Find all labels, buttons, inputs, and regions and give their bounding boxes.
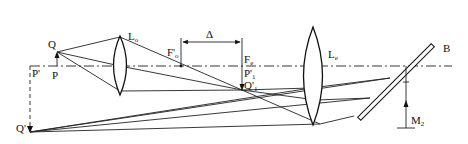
label-delta: Δ bbox=[206, 28, 213, 40]
ray bbox=[120, 66, 242, 90]
ray bbox=[57, 52, 120, 91]
label-b: B bbox=[443, 42, 450, 54]
eyepiece-lens bbox=[304, 27, 323, 125]
ray bbox=[120, 90, 242, 91]
microscope-diagram: Q P P' Q' Lo Le F'o Fe P'1 Q'1 Δ B M2 bbox=[0, 0, 468, 144]
ray bbox=[57, 52, 120, 66]
label-p-prime: P' bbox=[32, 67, 40, 79]
label-fo-prime: F'o bbox=[167, 46, 179, 60]
label-q-prime: Q' bbox=[16, 122, 26, 134]
label-p: P bbox=[52, 69, 58, 81]
ray bbox=[320, 116, 354, 124]
label-lo: Lo bbox=[128, 30, 139, 44]
ray bbox=[57, 37, 120, 52]
label-q1-prime: Q'1 bbox=[244, 79, 258, 93]
fo-prime-point bbox=[180, 65, 183, 68]
beam-splitter-plate bbox=[358, 44, 435, 121]
label-le: Le bbox=[328, 48, 338, 62]
label-m2: M2 bbox=[411, 114, 425, 128]
label-fe: Fe bbox=[244, 53, 253, 67]
objective-lens bbox=[114, 36, 127, 95]
m2-arrowhead-icon bbox=[404, 100, 409, 107]
label-q: Q bbox=[48, 38, 56, 50]
